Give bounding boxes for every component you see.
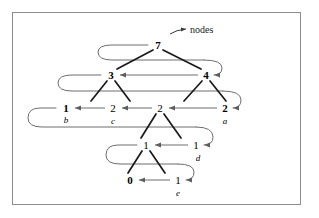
tree-edge (128, 151, 142, 173)
thread-wrap-path (58, 75, 223, 91)
nodes-annotation: nodes (190, 25, 213, 35)
node-name-c: c (111, 117, 115, 126)
figure-root: 73412221101bcade nodes (0, 0, 319, 218)
tree-node-n0[interactable]: 0 (127, 175, 133, 186)
node-name-a: a (223, 117, 228, 126)
tree-node-n7[interactable]: 7 (155, 40, 161, 51)
tree-edge (141, 114, 156, 138)
tree-edge (164, 114, 181, 138)
tree-node-n2c[interactable]: 2 (110, 103, 116, 114)
annotation-leader-line (170, 29, 186, 34)
node-name-d: d (196, 154, 201, 163)
tree-node-n3[interactable]: 3 (108, 70, 114, 81)
thread-wrap-path (98, 45, 204, 60)
tree-node-n2a[interactable]: 2 (222, 103, 228, 114)
tree-node-n1b[interactable]: 1 (63, 103, 69, 114)
node-name-b: b (64, 116, 69, 125)
thread-wrap-paths (28, 45, 241, 180)
nodes-pointer-icon (170, 29, 186, 34)
tree-node-n2mid[interactable]: 2 (157, 103, 163, 114)
thread-wrap-path (106, 145, 178, 164)
tree-node-n1d[interactable]: 1 (193, 140, 199, 151)
tree-node-n1e[interactable]: 1 (175, 175, 181, 186)
tree-node-n4[interactable]: 4 (203, 70, 209, 81)
tree-edge (150, 151, 165, 173)
node-name-e: e (176, 189, 180, 198)
tree-node-n1left[interactable]: 1 (143, 140, 149, 151)
